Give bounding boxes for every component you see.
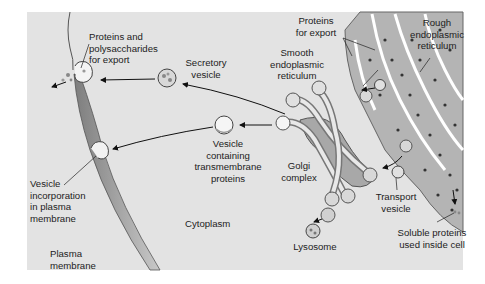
label-rough-er: Rough endoplasmic reticulum [402, 17, 472, 52]
lysosome [306, 224, 320, 238]
label-golgi-complex: Golgi complex [276, 160, 322, 183]
label-secretory-vesicle: Secretory vesicle [176, 57, 236, 80]
label-soluble-proteins: Soluble proteins used inside cell [384, 227, 480, 250]
export-arrow [52, 82, 66, 87]
label-lysosome: Lysosome [290, 241, 340, 253]
exocytosis-vesicle [61, 62, 92, 83]
arrow-secretory-to-membrane [101, 79, 155, 80]
label-vesicle-transmembrane: Vesicle containing transmembrane protein… [188, 138, 268, 184]
label-proteins-for-export: Proteins for export [284, 15, 348, 38]
arrow-golgi-to-lysosome [314, 219, 322, 222]
label-proteins-polysaccharides: Proteins and polysaccharides for export [89, 31, 158, 66]
secretory-vesicle [158, 69, 176, 87]
transmembrane-vesicle [215, 116, 233, 134]
label-smooth-er: Smooth endoplasmic reticulum [262, 47, 332, 82]
label-cytoplasm: Cytoplasm [185, 218, 230, 230]
arrow-golgi-to-secretory [183, 84, 285, 114]
label-vesicle-incorporation: Vesicle incorporation in plasma membrane [30, 178, 85, 224]
label-transport-vesicle: Transport vesicle [368, 191, 424, 214]
label-plasma-membrane: Plasma membrane [50, 248, 96, 271]
